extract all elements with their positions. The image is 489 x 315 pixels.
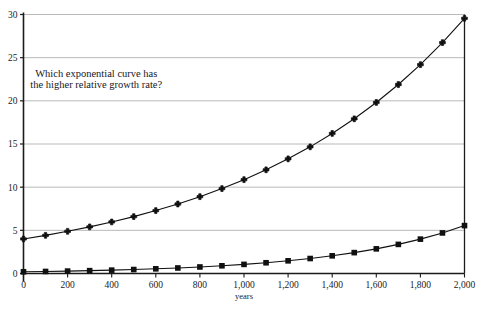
y-tick-label-5: 5	[13, 226, 18, 236]
x-tick-label-1800: 1,800	[410, 280, 432, 290]
lower-curve-marker	[219, 263, 225, 269]
lower-curve-marker	[396, 242, 402, 248]
question-annotation-line-2: the higher relative growth rate?	[30, 79, 162, 90]
lower-curve-marker	[175, 265, 181, 271]
exponential-growth-line-chart: 02004006008001,0001,2001,4001,6001,8002,…	[0, 0, 489, 315]
lower-curve-marker	[418, 236, 424, 242]
x-tick-label-0: 0	[21, 280, 26, 290]
question-annotation-line-1: Which exponential curve has	[35, 68, 157, 79]
lower-curve-marker	[131, 267, 137, 273]
chart-background	[0, 0, 489, 315]
annotations-group: Which exponential curve hasthe higher re…	[30, 68, 162, 91]
y-tick-label-15: 15	[8, 139, 18, 149]
x-tick-label-400: 400	[105, 280, 120, 290]
x-tick-label-2000: 2,000	[454, 280, 476, 290]
lower-curve-marker	[43, 269, 49, 275]
lower-curve-marker	[21, 269, 27, 275]
lower-curve-marker	[263, 260, 269, 266]
lower-curve-marker	[197, 264, 203, 270]
question-annotation: Which exponential curve hasthe higher re…	[30, 68, 162, 91]
y-tick-label-20: 20	[8, 96, 18, 106]
x-tick-label-200: 200	[60, 280, 75, 290]
lower-curve-marker	[109, 267, 115, 273]
x-tick-label-800: 800	[193, 280, 208, 290]
chart-figure: 02004006008001,0001,2001,4001,6001,8002,…	[0, 0, 489, 315]
axis-titles-group: years	[235, 291, 253, 301]
x-tick-label-1600: 1,600	[366, 280, 388, 290]
x-axis-title: years	[235, 291, 253, 301]
y-tick-label-0: 0	[13, 269, 18, 279]
lower-curve-marker	[153, 266, 159, 272]
lower-curve-marker	[87, 268, 93, 274]
lower-curve-marker	[307, 256, 313, 262]
x-tick-label-1400: 1,400	[322, 280, 344, 290]
y-tick-label-25: 25	[8, 53, 18, 63]
lower-curve-marker	[462, 223, 468, 229]
y-tick-label-10: 10	[8, 183, 18, 193]
y-tick-label-30: 30	[8, 10, 18, 20]
lower-curve-marker	[374, 246, 380, 252]
lower-curve-marker	[440, 230, 446, 236]
x-tick-label-600: 600	[149, 280, 164, 290]
lower-curve-marker	[241, 262, 247, 268]
lower-curve-marker	[65, 268, 71, 274]
x-tick-label-1200: 1,200	[277, 280, 299, 290]
lower-curve-marker	[329, 253, 335, 259]
lower-curve-marker	[351, 250, 357, 256]
x-tick-label-1000: 1,000	[233, 280, 255, 290]
lower-curve-marker	[285, 258, 291, 264]
